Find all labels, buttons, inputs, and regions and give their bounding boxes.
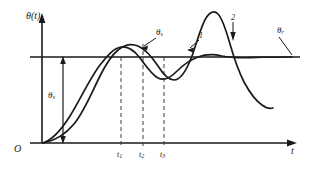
curve-2-label: 2 <box>231 14 235 22</box>
tick-subscript: 3 <box>162 153 165 159</box>
theta-s-mid-label: θs <box>156 28 163 37</box>
tick-subscript: 2 <box>141 153 144 159</box>
x-axis-label: t <box>291 146 294 156</box>
y-axis-label: θ(t) <box>26 11 40 21</box>
theta-s-subscript: s <box>52 94 54 100</box>
theta-s-subscript: s <box>160 31 162 37</box>
theta-s-measure-arrow <box>60 56 66 144</box>
theta-s-left-label: θs <box>48 91 55 100</box>
tick-label-t2: t2 <box>139 151 144 159</box>
time-marker-lines <box>121 44 164 147</box>
y-axis <box>39 13 46 143</box>
response-curve-1 <box>43 47 292 143</box>
theta-r-label: θr <box>277 26 284 35</box>
callout-leaders <box>141 22 292 55</box>
tick-label-t3: t3 <box>160 151 165 159</box>
curve-1-label: 1 <box>199 32 203 40</box>
tick-subscript: 1 <box>119 153 122 159</box>
origin-label: O <box>14 144 21 154</box>
tick-label-t1: t1 <box>117 151 122 159</box>
step-response-figure: θ(t) O t θs θs θr 1 2 t1 t2 t3 <box>0 0 315 177</box>
theta-r-subscript: r <box>281 29 283 35</box>
